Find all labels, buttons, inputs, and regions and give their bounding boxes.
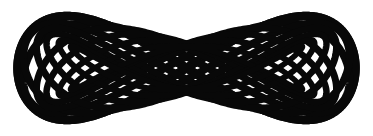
artwork-canvas: Interlaced Infinity Knot xyxy=(0,0,373,136)
infinity-knot-illustration: Interlaced Infinity Knot xyxy=(0,0,373,136)
